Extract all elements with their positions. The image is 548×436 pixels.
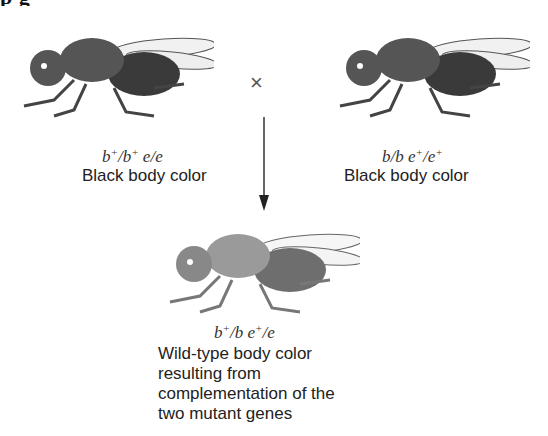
genotype-offspring: b+/b e+/e <box>214 322 275 343</box>
black-fly-parent-2 <box>330 22 530 122</box>
clipped-figure-heading: p g <box>0 0 30 6</box>
phenotype-line: Wild-type body color <box>158 344 335 364</box>
wild-type-fly-offspring <box>160 218 360 318</box>
phenotype-parent-2: Black body color <box>344 166 469 186</box>
genotype-parent-1: b+/b+ e/e <box>102 146 163 167</box>
black-fly-parent-1 <box>14 22 214 122</box>
phenotype-offspring: Wild-type body color resulting from comp… <box>158 344 335 424</box>
cross-result-arrow <box>258 117 270 211</box>
phenotype-line: resulting from <box>158 364 335 384</box>
phenotype-line: two mutant genes <box>158 404 335 424</box>
phenotype-line: complementation of the <box>158 384 335 404</box>
phenotype-parent-1: Black body color <box>82 166 207 186</box>
genotype-parent-2: b/b e+/e+ <box>382 146 443 167</box>
cross-symbol: × <box>250 70 263 96</box>
